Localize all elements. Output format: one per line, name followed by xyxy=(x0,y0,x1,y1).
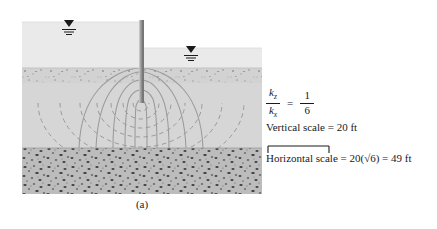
air-region xyxy=(143,22,262,48)
ratio-denominator: kx xyxy=(267,105,279,119)
ratio-numerator: kz xyxy=(267,87,279,101)
downstream-water-body xyxy=(143,48,262,68)
scale-bar xyxy=(267,140,436,149)
cross-section-diagram xyxy=(22,20,262,196)
sheet-pile-wall xyxy=(139,20,144,103)
upstream-water-body xyxy=(22,22,141,68)
impervious-rock-layer xyxy=(22,148,262,194)
horizontal-scale-label: Horizontal scale = 20(√6) = 49 ft xyxy=(266,152,436,166)
equals-sign: = xyxy=(287,98,293,109)
annotation-block: kz kx = 1 6 Vertical scale = 20 ft Horiz… xyxy=(266,90,436,166)
permeability-ratio-equation: kz kx = 1 6 xyxy=(266,90,436,116)
permeability-ratio-fraction: kz kx xyxy=(266,87,280,118)
figure-caption: (a) xyxy=(22,198,262,210)
figure-root: kz kx = 1 6 Vertical scale = 20 ft Horiz… xyxy=(0,0,437,229)
vertical-scale-label: Vertical scale = 20 ft xyxy=(266,121,436,135)
ratio-value-denominator: 6 xyxy=(302,105,312,117)
ratio-value-fraction: 1 6 xyxy=(300,90,314,116)
ratio-value-numerator: 1 xyxy=(302,90,312,102)
